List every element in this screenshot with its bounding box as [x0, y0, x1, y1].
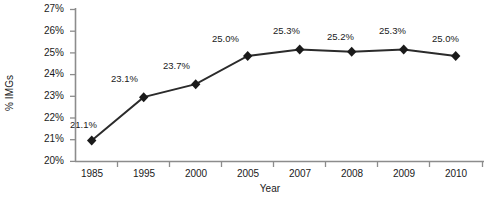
plot-area	[0, 0, 500, 214]
y-tick-21: 21%	[24, 134, 64, 144]
marker-2008	[347, 47, 356, 57]
data-markers	[87, 45, 460, 146]
marker-2010	[451, 51, 460, 61]
point-label-2000: 23.7%	[163, 61, 190, 71]
marker-2009	[399, 45, 408, 55]
marker-2005	[243, 51, 252, 61]
x-tick-2009: 2009	[377, 168, 431, 179]
marker-2007	[295, 45, 304, 55]
y-axis-ticks	[70, 10, 75, 162]
x-tick-2000: 2000	[169, 168, 223, 179]
y-tick-22: 22%	[24, 113, 64, 123]
point-label-2009: 25.3%	[379, 26, 406, 36]
x-tick-2010: 2010	[429, 168, 483, 179]
y-tick-24: 24%	[24, 69, 64, 79]
y-tick-25: 25%	[24, 48, 64, 58]
x-tick-2008: 2008	[325, 168, 379, 179]
y-tick-27: 27%	[24, 4, 64, 14]
x-tick-1985: 1985	[65, 168, 119, 179]
point-label-2010: 25.0%	[432, 34, 459, 44]
line-chart: % IMGs 27% 26% 25% 24% 23% 22% 21% 20% 1…	[0, 0, 500, 214]
marker-1985	[87, 136, 96, 146]
x-tick-1995: 1995	[117, 168, 171, 179]
x-tick-2005: 2005	[221, 168, 275, 179]
point-label-2008: 25.2%	[327, 32, 354, 42]
point-label-1995: 23.1%	[111, 74, 138, 84]
point-label-1985: 21.1%	[70, 120, 97, 130]
data-line	[92, 50, 456, 141]
x-axis-ticks	[118, 162, 483, 167]
point-label-2007: 25.3%	[273, 26, 300, 36]
point-label-2005: 25.0%	[212, 34, 239, 44]
y-tick-20: 20%	[24, 156, 64, 166]
marker-1995	[139, 92, 148, 102]
y-tick-23: 23%	[24, 91, 64, 101]
x-axis-title: Year	[248, 183, 292, 194]
y-axis-tick-labels: 27% 26% 25% 24% 23% 22% 21% 20%	[22, 0, 64, 180]
marker-2000	[191, 79, 200, 89]
y-axis-title: % IMGs	[2, 58, 16, 128]
x-tick-2007: 2007	[273, 168, 327, 179]
y-tick-26: 26%	[24, 26, 64, 36]
